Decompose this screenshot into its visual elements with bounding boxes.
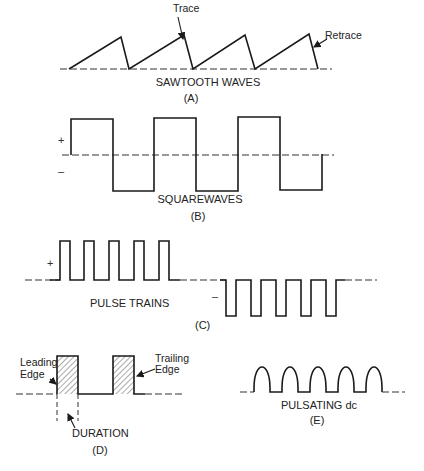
panel-e-letter: (E): [310, 414, 325, 426]
duration-arrow: [68, 414, 75, 428]
panel-b-letter: (B): [191, 210, 206, 222]
panel-a-caption: SAWTOOTH WAVES: [156, 76, 261, 88]
negative-pulse-train: [220, 280, 345, 316]
panel-a-sawtooth: Trace Retrace SAWTOOTH WAVES (A): [60, 2, 362, 104]
panel-e-pulsating-dc: PULSATING dc (E): [240, 367, 405, 426]
pulse-1-hatch: [57, 356, 78, 394]
retrace-label: Retrace: [325, 29, 362, 41]
positive-pulse-train: [50, 241, 180, 280]
minus-sign: –: [58, 165, 65, 177]
panel-d-letter: (D): [92, 444, 107, 456]
panel-c-letter: (C): [195, 319, 210, 331]
plus-sign: +: [58, 134, 64, 146]
pulse-2-hatch: [113, 356, 134, 394]
plus-sign: +: [47, 257, 53, 269]
panel-b-squarewave: + – SQUAREWAVES (B): [58, 117, 334, 222]
panel-b-caption: SQUAREWAVES: [158, 193, 243, 205]
trace-label: Trace: [173, 2, 200, 14]
panel-e-caption: PULSATING dc: [281, 399, 358, 411]
leading-edge-label-2: Edge: [20, 368, 45, 380]
panel-d-caption: DURATION: [72, 427, 129, 439]
trace-arrow: [178, 17, 183, 39]
sawtooth-wave: [69, 34, 318, 69]
trailing-edge-arrow: [137, 369, 155, 376]
squarewave: [71, 117, 322, 191]
panel-c-pulse-trains: + – PULSE TRAINS (C): [25, 241, 377, 331]
pulsating-dc-wave: [254, 367, 382, 392]
panel-c-caption: PULSE TRAINS: [90, 297, 169, 309]
waveform-diagram: Trace Retrace SAWTOOTH WAVES (A) + – SQU…: [0, 0, 424, 471]
panel-d-pulse-duration: Leading Edge Trailing Edge DURATION (D): [16, 352, 189, 456]
leading-edge-label-1: Leading: [20, 356, 58, 368]
panel-a-letter: (A): [184, 92, 199, 104]
minus-sign: –: [212, 290, 219, 302]
leading-edge-arrow: [50, 379, 56, 384]
trailing-edge-label-2: Edge: [155, 363, 180, 375]
retrace-arrow: [314, 39, 327, 47]
